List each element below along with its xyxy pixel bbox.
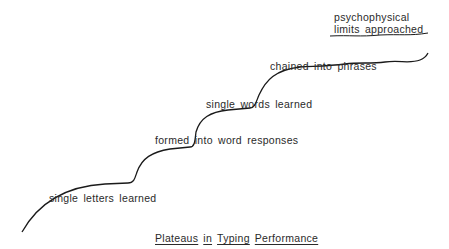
learning-curve-diagram bbox=[0, 0, 449, 249]
stage-label-single-letters: single letters learned bbox=[49, 192, 157, 204]
title-word: in bbox=[203, 232, 212, 244]
title-word: Performance bbox=[255, 232, 318, 244]
stage-label-limits-approached: limits approached bbox=[334, 23, 423, 35]
stage-label-word-responses: formed into word responses bbox=[155, 134, 298, 146]
title-word: Plateaus bbox=[155, 232, 198, 244]
title-word: Typing bbox=[217, 232, 250, 244]
stage-label-psychophysical: psychophysical bbox=[334, 11, 409, 23]
stage-label-single-words: single words learned bbox=[206, 98, 312, 110]
diagram-title: PlateausinTypingPerformance bbox=[155, 232, 323, 244]
stage-label-phrases: chained into phrases bbox=[270, 60, 377, 72]
